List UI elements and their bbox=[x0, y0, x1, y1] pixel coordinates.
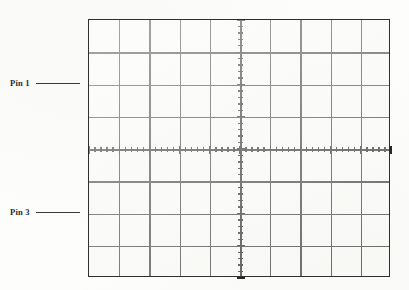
axis-tick-major-x bbox=[390, 146, 391, 154]
axis-tick-minor-y bbox=[238, 271, 243, 272]
axis-tick-major-x bbox=[300, 146, 301, 154]
axis-tick-minor-y bbox=[238, 77, 243, 78]
axis-tick-minor-y bbox=[238, 90, 243, 91]
axis-tick-minor-y bbox=[238, 39, 243, 40]
axis-tick-major-y bbox=[237, 52, 245, 53]
axis-tick-minor-y bbox=[238, 174, 243, 175]
axis-tick-minor-x bbox=[155, 147, 156, 152]
callout-1: Pin 1 bbox=[10, 79, 80, 88]
axis-tick-minor-x bbox=[318, 147, 319, 152]
axis-tick-minor-y bbox=[238, 135, 243, 136]
axis-tick-major-x bbox=[179, 146, 180, 154]
axis-tick-minor-x bbox=[306, 147, 307, 152]
axis-tick-minor-x bbox=[245, 147, 246, 152]
axis-tick-minor-x bbox=[348, 147, 349, 152]
axis-tick-minor-y bbox=[238, 64, 243, 65]
axis-tick-minor-x bbox=[167, 147, 168, 152]
axis-tick-minor-x bbox=[336, 147, 337, 152]
axis-tick-major-y bbox=[237, 245, 245, 246]
axis-tick-minor-x bbox=[372, 147, 373, 152]
axis-tick-minor-x bbox=[366, 147, 367, 152]
axis-tick-minor-x bbox=[227, 147, 228, 152]
axis-tick-minor-y bbox=[238, 226, 243, 227]
axis-tick-minor-y bbox=[238, 232, 243, 233]
axis-tick-minor-y bbox=[238, 161, 243, 162]
axis-tick-minor-x bbox=[94, 147, 95, 152]
axis-tick-major-y bbox=[237, 116, 245, 117]
axis-tick-minor-y bbox=[238, 103, 243, 104]
axis-tick-minor-x bbox=[263, 147, 264, 152]
axis-tick-minor-x bbox=[312, 147, 313, 152]
axis-tick-minor-y bbox=[238, 252, 243, 253]
axis-tick-minor-y bbox=[238, 264, 243, 265]
axis-tick-minor-x bbox=[288, 147, 289, 152]
axis-tick-minor-y bbox=[238, 219, 243, 220]
axis-tick-minor-x bbox=[354, 147, 355, 152]
axis-tick-minor-x bbox=[257, 147, 258, 152]
axis-tick-minor-x bbox=[294, 147, 295, 152]
axis-tick-minor-y bbox=[238, 258, 243, 259]
axis-tick-major-x bbox=[270, 146, 271, 154]
axis-tick-minor-x bbox=[276, 147, 277, 152]
axis-tick-minor-y bbox=[238, 142, 243, 143]
axis-tick-major-y bbox=[237, 277, 245, 278]
axis-tick-minor-x bbox=[131, 147, 132, 152]
axis-tick-minor-x bbox=[251, 147, 252, 152]
callout-leader-line bbox=[36, 212, 80, 213]
callout-2: Pin 3 bbox=[10, 208, 80, 217]
axis-tick-minor-y bbox=[238, 155, 243, 156]
axis-tick-minor-x bbox=[233, 147, 234, 152]
axis-tick-minor-y bbox=[238, 32, 243, 33]
axis-tick-minor-y bbox=[238, 200, 243, 201]
axis-tick-minor-x bbox=[137, 147, 138, 152]
axis-tick-minor-x bbox=[185, 147, 186, 152]
axis-tick-major-x bbox=[119, 146, 120, 154]
axis-tick-minor-y bbox=[238, 206, 243, 207]
figure-canvas: Pin 1Pin 3 bbox=[0, 0, 409, 290]
axis-tick-minor-x bbox=[203, 147, 204, 152]
axis-tick-major-y bbox=[237, 181, 245, 182]
axis-tick-major-x bbox=[88, 146, 89, 154]
axis-tick-minor-x bbox=[221, 147, 222, 152]
axis-tick-major-y bbox=[237, 19, 245, 20]
axis-tick-minor-y bbox=[238, 193, 243, 194]
axis-tick-minor-y bbox=[238, 187, 243, 188]
axis-tick-minor-x bbox=[173, 147, 174, 152]
axis-tick-major-x bbox=[360, 146, 361, 154]
axis-tick-minor-x bbox=[342, 147, 343, 152]
axis-tick-minor-y bbox=[238, 45, 243, 46]
axis-tick-minor-x bbox=[125, 147, 126, 152]
axis-tick-major-x bbox=[239, 146, 240, 154]
callout-label: Pin 1 bbox=[10, 79, 30, 88]
axis-tick-minor-y bbox=[238, 110, 243, 111]
axis-tick-minor-x bbox=[112, 147, 113, 152]
axis-tick-major-x bbox=[330, 146, 331, 154]
axis-tick-minor-x bbox=[215, 147, 216, 152]
axis-tick-minor-y bbox=[238, 129, 243, 130]
axis-tick-minor-y bbox=[238, 58, 243, 59]
axis-tick-major-y bbox=[237, 148, 245, 149]
oscilloscope-graticule bbox=[88, 19, 390, 277]
callout-leader-line bbox=[36, 83, 80, 84]
axis-tick-minor-x bbox=[161, 147, 162, 152]
axis-tick-minor-x bbox=[191, 147, 192, 152]
axis-tick-minor-x bbox=[106, 147, 107, 152]
axis-tick-minor-x bbox=[100, 147, 101, 152]
axis-tick-minor-y bbox=[238, 97, 243, 98]
axis-tick-minor-y bbox=[238, 168, 243, 169]
callout-label: Pin 3 bbox=[10, 208, 30, 217]
axis-tick-minor-x bbox=[197, 147, 198, 152]
axis-tick-major-x bbox=[209, 146, 210, 154]
axis-tick-minor-y bbox=[238, 71, 243, 72]
axis-tick-minor-x bbox=[324, 147, 325, 152]
axis-tick-major-y bbox=[237, 213, 245, 214]
axis-tick-minor-x bbox=[378, 147, 379, 152]
axis-tick-major-x bbox=[149, 146, 150, 154]
axis-tick-minor-x bbox=[282, 147, 283, 152]
axis-tick-minor-y bbox=[238, 239, 243, 240]
axis-tick-minor-y bbox=[238, 26, 243, 27]
axis-tick-major-y bbox=[237, 84, 245, 85]
axis-tick-minor-y bbox=[238, 123, 243, 124]
axis-tick-minor-x bbox=[143, 147, 144, 152]
axis-tick-minor-x bbox=[384, 147, 385, 152]
